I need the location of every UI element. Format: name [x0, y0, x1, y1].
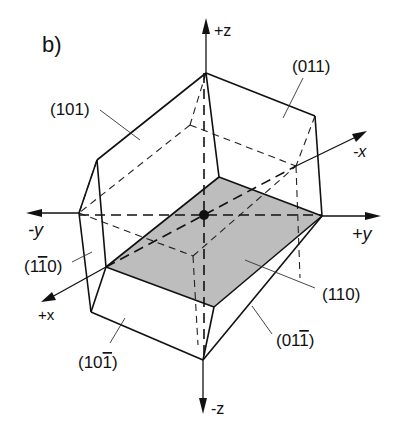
arrow-plus-z-icon	[202, 18, 210, 34]
face-label-1-bar1-0: (110)	[24, 252, 92, 276]
crystal-diagram: b)	[0, 0, 401, 435]
arrow-minus-x-icon	[352, 131, 367, 142]
arrow-minus-z-icon	[199, 398, 207, 414]
face-label-01-bar1: (011)	[252, 306, 314, 350]
label-minus-x: -x	[353, 143, 367, 160]
label-plus-z: +z	[214, 22, 231, 39]
svg-text:(110): (110)	[24, 257, 62, 276]
arrow-plus-y-icon	[365, 212, 381, 220]
arrow-minus-y-icon	[26, 209, 42, 217]
panel-label: b)	[42, 32, 62, 57]
face-label-011: (011)	[292, 57, 330, 76]
face-label-10-bar1: (101)	[78, 318, 125, 372]
arrow-plus-x-icon	[41, 292, 56, 302]
face-label-101: (101)	[50, 100, 90, 119]
label-minus-z: -z	[211, 400, 224, 417]
face-label-110: (110)	[322, 285, 360, 304]
svg-text:(011): (011)	[276, 331, 314, 350]
label-minus-y: -y	[28, 220, 44, 240]
label-plus-y: +y	[352, 224, 373, 244]
svg-text:(101): (101)	[78, 353, 118, 372]
origin-point	[199, 210, 209, 220]
label-plus-x: +x	[38, 306, 55, 323]
